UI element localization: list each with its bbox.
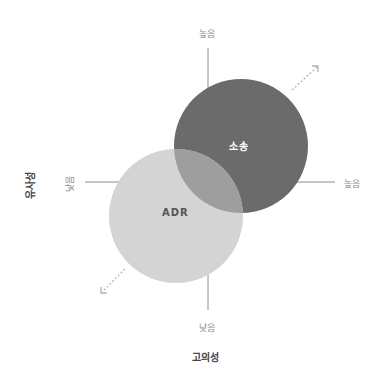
litigation-label: 소송 (229, 138, 249, 153)
arrow-up-right (292, 66, 318, 90)
x-axis-title: 고의성 (192, 349, 219, 364)
x-axis-low-label: 낮음 (63, 176, 76, 192)
arrow-down-left (101, 269, 125, 293)
y-axis-low-label: 낮음 (199, 321, 215, 334)
y-axis-high-label: 높음 (199, 27, 215, 40)
positioning-diagram: 소송 ADR 높음 낮음 낮음 높음 고의성 유사성 (0, 0, 388, 375)
y-axis-title: 유사성 (22, 172, 37, 199)
x-axis-high-label: 높음 (344, 177, 360, 190)
adr-label: ADR (162, 207, 189, 218)
